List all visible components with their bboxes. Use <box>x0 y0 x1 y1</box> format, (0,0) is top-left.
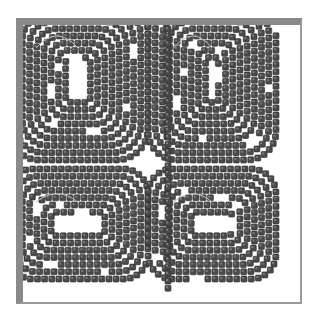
bead-spiral-artwork <box>23 25 300 302</box>
picture-frame <box>16 18 302 304</box>
